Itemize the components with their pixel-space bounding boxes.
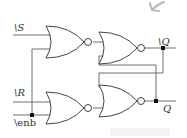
output-label-q: Q [163,103,171,114]
nor-gate-2 [99,32,145,64]
wires [13,35,176,115]
junction-enb [30,113,34,117]
junction-q [154,99,158,103]
sr-latch-diagram: \S \R \enb \Q Q [0,0,187,138]
output-label-q-bar: \Q [158,36,170,47]
junction-q-bar [161,46,165,50]
nor-gate-4 [99,85,145,117]
nor-gate-3 [46,92,92,124]
nor-gate-1 [46,26,92,58]
input-label-s-bar: \S [14,22,24,33]
scan-smudge [110,128,170,136]
input-label-enb-bar: \enb [14,117,36,128]
input-label-r-bar: \R [14,87,25,98]
pen-stroke-annotation [150,2,164,11]
